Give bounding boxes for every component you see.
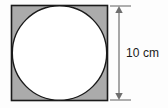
arrowhead-up-icon: [115, 6, 122, 13]
dimension-label: 10 cm: [126, 46, 159, 61]
geometry-figure: 10 cm: [0, 0, 168, 108]
arrowhead-down-icon: [115, 93, 122, 100]
inscribed-circle: [12, 6, 106, 100]
